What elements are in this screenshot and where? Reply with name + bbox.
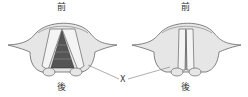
left-top-label: 前 [57,3,66,12]
pointer-line-right [128,67,170,79]
left-bottom-label: 後 [57,83,66,92]
left-larynx-open [8,23,117,76]
pointer-line-left [88,65,119,79]
pointer-label-x: X [120,76,125,84]
right-top-label: 前 [181,3,190,12]
right-larynx-closed [132,23,241,76]
right-bottom-label: 後 [181,83,190,92]
